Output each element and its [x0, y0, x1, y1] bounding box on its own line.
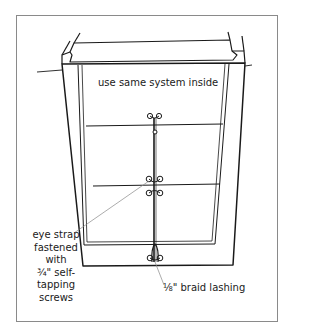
label-line: eye strap [27, 229, 85, 242]
label-line: ¾" self- [27, 267, 85, 280]
sliding-hatch [70, 40, 237, 62]
label-use-same-system: use same system inside [98, 77, 228, 90]
washboard-seam-2 [93, 184, 220, 186]
label-line: fastened [27, 242, 85, 255]
label-eye-strap: eye strap fastened with ¾" self- tapping… [27, 229, 85, 304]
label-line: tapping [27, 279, 85, 292]
label-braid-lashing: ⅛" braid lashing [163, 282, 273, 295]
label-line: with [27, 254, 85, 267]
label-line: screws [27, 292, 85, 305]
